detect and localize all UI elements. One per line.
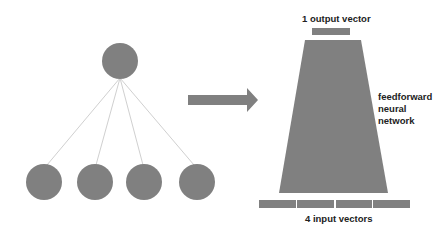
right-arrow-icon [188, 88, 258, 112]
network-name-line-3: network [378, 115, 414, 126]
root-node [102, 43, 138, 79]
leaf-node [126, 164, 162, 200]
input-vector [297, 200, 334, 208]
input-vector [373, 200, 410, 208]
leaf-node [179, 164, 215, 200]
network-name-line-2: neural [378, 103, 407, 114]
output-vector-label: 1 output vector [302, 13, 371, 24]
input-vectors-label: 4 input vectors [305, 213, 373, 224]
feedforward-network-trapezoid [279, 40, 388, 193]
input-vector [336, 200, 372, 208]
network-name-line-1: feedforward [378, 91, 432, 102]
output-vector [312, 28, 350, 35]
leaf-node [77, 164, 113, 200]
tree-edges [47, 78, 194, 165]
leaf-node [26, 164, 62, 200]
input-vector [259, 200, 296, 208]
input-vectors [259, 200, 410, 208]
